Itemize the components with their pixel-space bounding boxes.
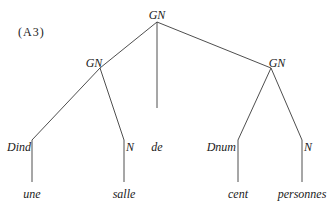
- example-label: (A3): [18, 25, 45, 39]
- node-dnum: Dnum: [206, 140, 237, 154]
- leaf-personnes: personnes: [277, 187, 327, 201]
- edge-root-leftgn: [100, 22, 157, 68]
- edge-rightgn-n: [271, 68, 302, 140]
- edge-root-rightgn: [157, 22, 271, 68]
- edge-leftgn-dind: [32, 68, 100, 140]
- leaf-salle: salle: [113, 187, 136, 201]
- leaf-une: une: [23, 187, 41, 201]
- leaf-cent: cent: [228, 187, 249, 201]
- node-root-gn: GN: [149, 8, 167, 22]
- edge-leftgn-n: [100, 68, 124, 140]
- node-n-left: N: [125, 140, 135, 154]
- node-de: de: [151, 140, 163, 154]
- edge-rightgn-dnum: [238, 68, 271, 140]
- node-dind: Dind: [6, 140, 32, 154]
- node-left-gn: GN: [86, 56, 104, 70]
- node-right-gn: GN: [269, 56, 287, 70]
- syntax-tree: (A3) GN GN GN Dind N de Dnum N une salle…: [0, 0, 332, 211]
- node-n-right: N: [303, 140, 313, 154]
